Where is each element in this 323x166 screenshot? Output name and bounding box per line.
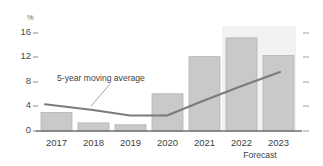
x-tick-label-2018: 2018: [83, 137, 104, 148]
y-tick-label-0: 0: [26, 124, 31, 135]
x-tick-label-2020: 2020: [157, 137, 178, 148]
x-tick-label-2023: 2023: [268, 137, 289, 148]
y-axis-unit-label: %: [27, 13, 34, 22]
x-tick-label-2019: 2019: [120, 137, 141, 148]
x-tick-label-2017: 2017: [46, 137, 67, 148]
x-tick-label-2021: 2021: [194, 137, 215, 148]
bar-2021: [189, 57, 220, 131]
bar-2017: [41, 112, 72, 131]
x-tick-label-2022: 2022: [231, 137, 252, 148]
y-tick-label-16: 16: [20, 26, 31, 37]
forecast-label: Forecast: [243, 150, 277, 160]
y-tick-label-8: 8: [26, 75, 31, 86]
annotation-leader-line: [91, 84, 110, 106]
chart-container: % 16 12 8 4 0 5-year moving average: [0, 0, 323, 166]
bar-2020: [152, 94, 183, 131]
y-tick-label-4: 4: [26, 99, 31, 110]
bar-2018: [78, 123, 109, 131]
bar-chart: % 16 12 8 4 0 5-year moving average: [0, 0, 323, 166]
bar-2019: [115, 125, 146, 131]
moving-average-annotation-label: 5-year moving average: [57, 73, 145, 83]
bar-2022: [226, 38, 257, 131]
bar-2023: [263, 55, 294, 131]
y-tick-label-12: 12: [20, 50, 31, 61]
